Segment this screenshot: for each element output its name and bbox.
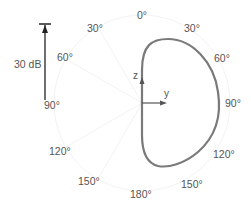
angle-label-right-60: 60° [214, 53, 230, 64]
scale-label: 30 dB [14, 59, 41, 70]
angle-label-right-30: 30° [184, 23, 200, 34]
z-axis-arrow [140, 77, 145, 84]
z-axis-label: z [133, 71, 138, 81]
angle-label-left-30: 30° [87, 23, 103, 34]
angle-label-left-60: 60° [57, 52, 73, 63]
angle-label-right-90: 90° [225, 98, 241, 109]
polar-plot [0, 0, 251, 208]
angle-label-right-120: 120° [213, 149, 235, 160]
y-axis-arrow [142, 101, 167, 106]
y-axis-label: y [164, 89, 169, 99]
angle-label-left-90: 90° [44, 100, 60, 111]
angle-label-180: 180° [130, 189, 152, 200]
angle-label-left-150: 150° [78, 176, 100, 187]
angle-label-right-150: 150° [181, 179, 203, 190]
angle-label-left-120: 120° [49, 146, 71, 157]
angle-label-0: 0° [137, 10, 147, 21]
